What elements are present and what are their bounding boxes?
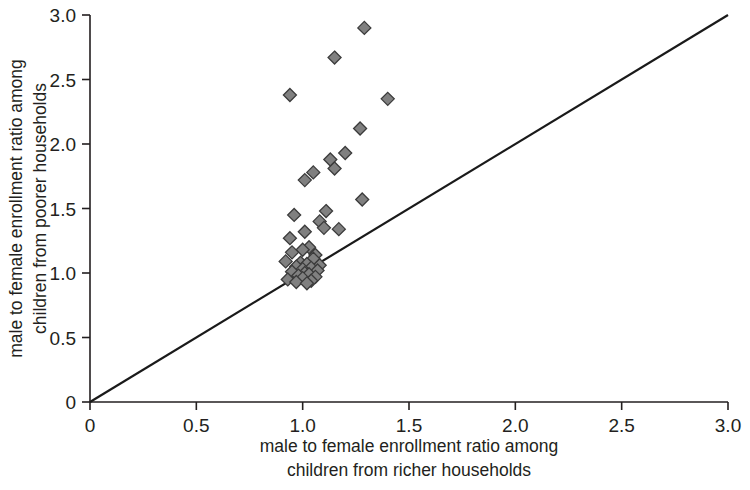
- y-tick-label: 0: [65, 392, 76, 413]
- data-point-marker: [381, 92, 394, 105]
- x-tick-label: 1.0: [289, 415, 315, 436]
- x-tick-label: 2.0: [502, 415, 528, 436]
- data-point-marker: [332, 223, 345, 236]
- y-tick-label: 1.0: [50, 263, 76, 284]
- x-tick-label: 3.0: [715, 415, 741, 436]
- data-point-marker: [328, 51, 341, 64]
- plot-canvas: 00.51.01.52.02.53.000.51.01.52.02.53.0 m…: [0, 0, 750, 490]
- data-point-marker: [320, 205, 333, 218]
- data-point-marker: [358, 21, 371, 34]
- x-tick-label: 1.5: [396, 415, 422, 436]
- y-axis-title-line2: children from poorer households: [30, 83, 50, 334]
- data-point-marker: [288, 208, 301, 221]
- y-tick-label: 1.5: [50, 199, 76, 220]
- x-tick-label: 0.5: [183, 415, 209, 436]
- y-axis-title-line1: male to female enrollment ratio among: [6, 59, 26, 358]
- data-point-marker: [283, 88, 296, 101]
- x-tick-label: 2.5: [608, 415, 634, 436]
- y-tick-label: 3.0: [50, 5, 76, 26]
- data-points-group: [279, 21, 394, 289]
- y-tick-label: 2.0: [50, 134, 76, 155]
- y-tick-label: 0.5: [50, 328, 76, 349]
- data-point-marker: [354, 122, 367, 135]
- data-point-marker: [339, 147, 352, 160]
- parity-reference-line: [90, 15, 728, 402]
- x-tick-label: 0: [85, 415, 96, 436]
- data-point-marker: [356, 193, 369, 206]
- x-axis-title-line2: children from richer households: [287, 460, 531, 480]
- data-point-marker: [283, 232, 296, 245]
- y-tick-label: 2.5: [50, 70, 76, 91]
- data-point-marker: [298, 225, 311, 238]
- x-axis-title-line1: male to female enrollment ratio among: [260, 436, 559, 456]
- scatter-plot-figure: 00.51.01.52.02.53.000.51.01.52.02.53.0 m…: [0, 0, 750, 490]
